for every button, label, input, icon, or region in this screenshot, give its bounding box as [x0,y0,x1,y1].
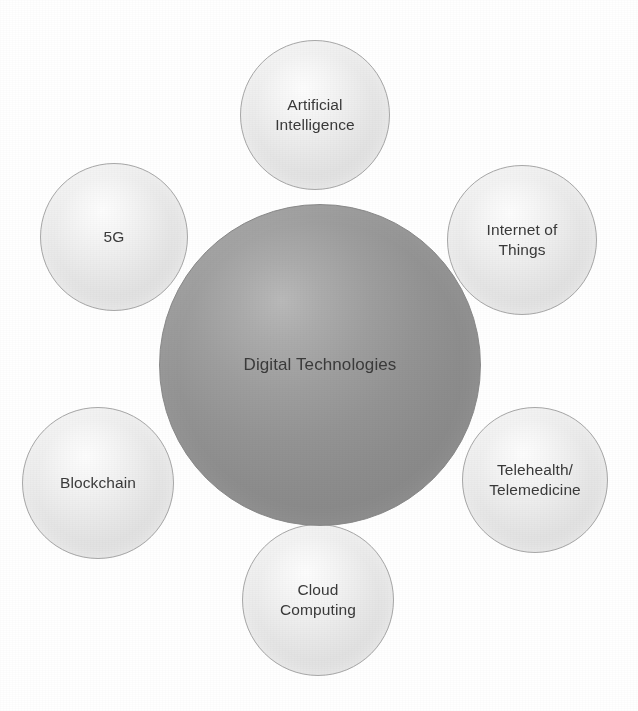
node-cloud-computing[interactable]: Cloud Computing [242,524,394,676]
node-label-telehealth-telemedicine: Telehealth/ Telemedicine [489,460,581,500]
node-label-5g: 5G [104,227,125,247]
node-5g[interactable]: 5G [40,163,188,311]
node-internet-of-things[interactable]: Internet of Things [447,165,597,315]
node-label-blockchain: Blockchain [60,473,136,493]
node-blockchain[interactable]: Blockchain [22,407,174,559]
node-label-cloud-computing: Cloud Computing [280,580,356,620]
node-label-digital-technologies: Digital Technologies [244,354,397,376]
node-label-internet-of-things: Internet of Things [487,220,558,260]
node-telehealth-telemedicine[interactable]: Telehealth/ Telemedicine [462,407,608,553]
node-label-artificial-intelligence: Artificial Intelligence [275,95,355,135]
digital-technologies-diagram: Artificial Intelligence Internet of Thin… [0,0,638,711]
node-artificial-intelligence[interactable]: Artificial Intelligence [240,40,390,190]
node-digital-technologies-hub[interactable]: Digital Technologies [159,204,481,526]
